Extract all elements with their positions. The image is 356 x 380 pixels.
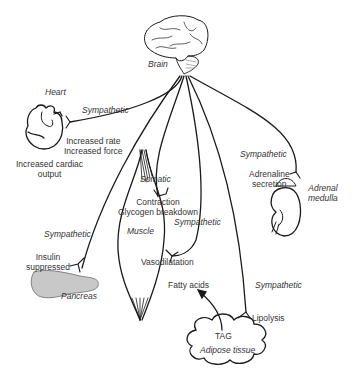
diagram-graphics [0,0,356,380]
fatty-acids-label: Fatty acids [168,281,209,291]
heart-label: Heart [45,88,66,98]
lipolysis-label: Lipolysis [252,314,285,324]
pancreas-effect-line2: suppressed [26,263,70,273]
heart-outcome: Increased cardiac output [16,160,83,179]
heart-icon [26,105,63,149]
adipose-nerve [188,76,246,312]
adipose-tissue-label: Adipose tissue [200,346,255,356]
autonomic-pathways-diagram: Brain Heart Sympathetic Increased rate I… [0,0,356,380]
adrenal-effect: Adrenaline secretion [249,170,290,189]
adrenal-label-line2: medulla [308,194,338,204]
adipose-nerve-label: Sympathetic [255,281,302,291]
pancreas-nerve-label: Sympathetic [44,230,91,240]
muscle-somatic-effects: Contraction Glycogen breakdown [118,198,198,217]
vasodilatation-label: Vasodilatation [141,258,194,268]
adrenal-nerve-label: Sympathetic [240,150,287,160]
adrenaline-line2: secretion [249,180,290,190]
tag-label: TAG [215,332,232,342]
fatty-acids-arrow [200,292,222,330]
muscle-somatic-label: Somatic [140,175,171,185]
pancreas-label: Pancreas [61,292,97,302]
heart-effects: Increased rate Increased force [64,137,123,156]
muscle-label: Muscle [127,227,154,237]
adrenal-medulla-label: Adrenal medulla [308,184,338,203]
muscle-sympathetic-nerve [172,76,201,256]
heart-nerve-label: Sympathetic [82,106,129,116]
muscle-sympathetic-label: Sympathetic [174,218,221,228]
pancreas-effect: Insulin suppressed [26,253,70,272]
heart-effect-force: Increased force [64,147,123,157]
muscle-effect-glycogen: Glycogen breakdown [118,208,198,218]
brain-label: Brain [148,60,168,70]
heart-outcome-line2: output [16,170,83,180]
